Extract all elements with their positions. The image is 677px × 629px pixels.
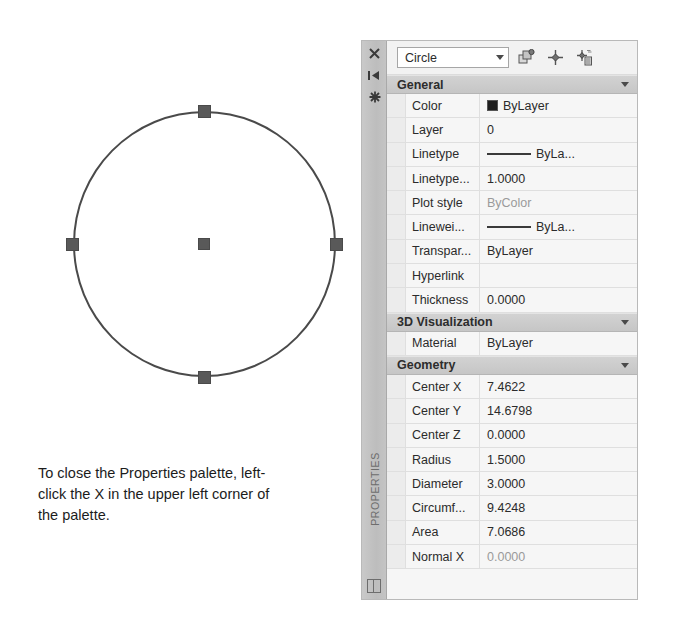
row-gutter [387, 399, 406, 422]
property-row[interactable]: Diameter3.0000 [387, 472, 637, 496]
row-gutter [387, 94, 406, 117]
palette-title-vertical: PROPERTIES [369, 445, 381, 533]
row-gutter [387, 288, 406, 311]
property-label: Center X [406, 375, 480, 398]
select-objects-icon[interactable] [543, 46, 567, 70]
section-title: General [397, 78, 621, 92]
property-row[interactable]: ColorByLayer [387, 94, 637, 118]
property-label: Area [406, 521, 480, 544]
property-value[interactable]: 0.0000 [480, 293, 637, 307]
grip-right-quadrant[interactable] [330, 238, 343, 251]
grip-center[interactable] [198, 238, 210, 250]
property-row[interactable]: Hyperlink [387, 264, 637, 288]
grip-top-quadrant[interactable] [198, 105, 211, 118]
section-header[interactable]: 3D Visualization [387, 313, 637, 332]
property-value-text: 3.0000 [487, 477, 525, 491]
property-value[interactable]: 7.4622 [480, 380, 637, 394]
property-row[interactable]: Normal X0.0000 [387, 545, 637, 569]
property-value[interactable]: 7.0686 [480, 525, 637, 539]
property-value[interactable]: ByColor [480, 196, 637, 210]
property-row[interactable]: Plot styleByColor [387, 191, 637, 215]
property-value[interactable]: ByLayer [480, 244, 637, 258]
property-row[interactable]: Center Z0.0000 [387, 424, 637, 448]
property-value[interactable]: 14.6798 [480, 404, 637, 418]
row-gutter [387, 143, 406, 166]
property-row[interactable]: Layer0 [387, 118, 637, 142]
property-value-text: 7.0686 [487, 525, 525, 539]
row-gutter [387, 264, 406, 287]
property-label: Radius [406, 448, 480, 471]
property-value[interactable]: ByLa... [480, 220, 637, 234]
row-gutter [387, 545, 406, 568]
section-header[interactable]: General [387, 75, 637, 94]
palette-dock-icon[interactable] [367, 579, 381, 593]
property-value-text: ByColor [487, 196, 531, 210]
object-type-dropdown[interactable]: Circle [397, 47, 509, 68]
property-label: Color [406, 94, 480, 117]
property-label: Transpar... [406, 240, 480, 263]
property-value-text: 9.4248 [487, 501, 525, 515]
property-value[interactable]: 0 [480, 123, 637, 137]
property-row[interactable]: MaterialByLayer [387, 332, 637, 356]
properties-scroll-region[interactable]: GeneralColorByLayerLayer0LinetypeByLa...… [387, 74, 637, 599]
palette-settings-icon[interactable] [362, 87, 387, 107]
property-row[interactable]: Radius1.5000 [387, 448, 637, 472]
property-value[interactable]: 0.0000 [480, 550, 637, 564]
property-value-text: 7.4622 [487, 380, 525, 394]
row-gutter [387, 448, 406, 471]
row-gutter [387, 424, 406, 447]
toggle-pickadd-icon[interactable] [514, 46, 538, 70]
property-row[interactable]: LinetypeByLa... [387, 143, 637, 167]
property-label: Circumf... [406, 496, 480, 519]
section-title: Geometry [397, 358, 621, 372]
property-label: Linetype [406, 143, 480, 166]
property-row[interactable]: Transpar...ByLayer [387, 240, 637, 264]
chevron-down-icon[interactable] [621, 363, 629, 368]
property-value-text: 0.0000 [487, 428, 525, 442]
grip-left-quadrant[interactable] [66, 238, 79, 251]
drawing-canvas: To close the Properties palette, left-cl… [0, 0, 360, 629]
property-sections: GeneralColorByLayerLayer0LinetypeByLa...… [387, 75, 637, 569]
grip-bottom-quadrant[interactable] [198, 371, 211, 384]
property-row[interactable]: Linetype...1.0000 [387, 167, 637, 191]
row-gutter [387, 496, 406, 519]
property-value[interactable]: 1.0000 [480, 172, 637, 186]
property-value-text: 14.6798 [487, 404, 532, 418]
property-value[interactable]: 0.0000 [480, 428, 637, 442]
property-value[interactable]: 9.4248 [480, 501, 637, 515]
property-label: Center Y [406, 399, 480, 422]
property-row[interactable]: Circumf...9.4248 [387, 496, 637, 520]
property-value[interactable]: ByLayer [480, 99, 637, 113]
chevron-down-icon[interactable] [621, 82, 629, 87]
section-title: 3D Visualization [397, 315, 621, 329]
property-value-text: ByLayer [503, 99, 549, 113]
row-gutter [387, 215, 406, 238]
auto-hide-icon[interactable] [362, 65, 387, 85]
quick-select-icon[interactable] [572, 46, 596, 70]
row-gutter [387, 191, 406, 214]
property-value[interactable]: ByLa... [480, 147, 637, 161]
property-label: Thickness [406, 288, 480, 311]
property-value[interactable]: 3.0000 [480, 477, 637, 491]
section-header[interactable]: Geometry [387, 356, 637, 375]
property-row[interactable]: Center X7.4622 [387, 375, 637, 399]
chevron-down-icon[interactable] [621, 320, 629, 325]
property-label: Center Z [406, 424, 480, 447]
property-row[interactable]: Linewei...ByLa... [387, 215, 637, 239]
close-icon[interactable] [362, 43, 387, 63]
instruction-caption: To close the Properties palette, left-cl… [38, 463, 288, 526]
property-value[interactable]: 1.5000 [480, 453, 637, 467]
property-value-text: 0.0000 [487, 293, 525, 307]
property-label: Linewei... [406, 215, 480, 238]
property-label: Linetype... [406, 167, 480, 190]
property-value-text: 0.0000 [487, 550, 525, 564]
property-value-text: ByLa... [536, 220, 575, 234]
property-row[interactable]: Thickness0.0000 [387, 288, 637, 312]
palette-toolbar: Circle [387, 41, 637, 74]
property-row[interactable]: Center Y14.6798 [387, 399, 637, 423]
row-gutter [387, 240, 406, 263]
property-value-text: ByLayer [487, 244, 533, 258]
palette-sidebar: PROPERTIES [362, 41, 387, 599]
property-row[interactable]: Area7.0686 [387, 521, 637, 545]
property-value[interactable]: ByLayer [480, 336, 637, 350]
